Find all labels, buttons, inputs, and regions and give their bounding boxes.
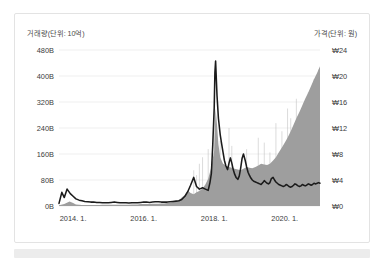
x-tick-label: 2014. 1. [60,214,87,223]
x-tick-label: 2020. 1. [271,214,298,223]
right-axis-ticks: ₩24₩20₩16₩12₩8₩4₩0 [332,46,347,211]
left-tick-label: 0B [45,202,54,211]
right-tick-label: ₩16 [332,98,347,107]
volume-price-chart: 480B400B320B240B160B80B0B ₩24₩20₩16₩12₩8… [15,14,371,244]
x-tick-label: 2018. 1. [201,214,228,223]
left-tick-label: 400B [37,72,54,81]
x-axis-ticks: 2014. 1.2016. 1.2018. 1.2020. 1. [60,214,298,223]
left-tick-label: 320B [37,98,54,107]
right-tick-label: ₩4 [332,176,343,185]
x-tick-label: 2016. 1. [130,214,157,223]
right-tick-label: ₩20 [332,72,347,81]
left-tick-label: 480B [37,46,54,55]
right-tick-label: ₩8 [332,150,343,159]
left-tick-label: 240B [37,124,54,133]
left-axis-ticks: 480B400B320B240B160B80B0B [37,46,54,211]
right-tick-label: ₩12 [332,124,347,133]
chart-plot-area: 480B400B320B240B160B80B0B ₩24₩20₩16₩12₩8… [15,14,371,244]
chart-card: 거래량(단위: 10억) 가격(단위: 원) 480B400B320B240B1… [14,13,370,243]
left-tick-label: 80B [41,176,54,185]
right-tick-label: ₩24 [332,46,347,55]
right-tick-label: ₩0 [332,202,343,211]
footer-strip [14,249,370,258]
left-tick-label: 160B [37,150,54,159]
